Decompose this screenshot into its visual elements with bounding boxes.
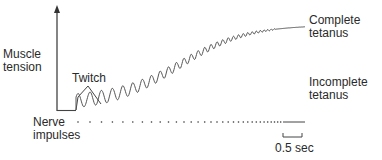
nerve-impulses-label: Nerve impulses <box>33 116 80 142</box>
tension-waveform <box>76 27 305 110</box>
nerve-impulse-dots <box>77 121 281 123</box>
incomplete-tetanus-label: Incomplete tetanus <box>309 76 368 102</box>
y-axis-label: Muscle tension <box>3 48 42 74</box>
y-axis-arrow-icon <box>54 5 60 13</box>
scale-bar <box>283 133 302 137</box>
twitch-curve <box>76 86 101 110</box>
complete-tetanus-label: Complete tetanus <box>309 14 360 40</box>
scale-label: 0.5 sec <box>275 142 314 155</box>
twitch-label: Twitch <box>72 72 106 85</box>
